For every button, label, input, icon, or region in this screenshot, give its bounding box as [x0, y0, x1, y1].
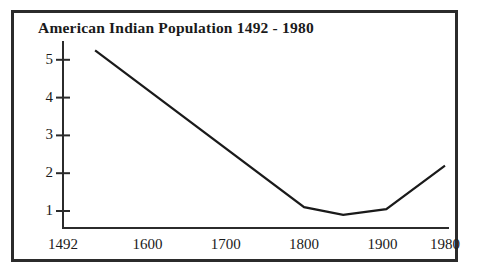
y-axis-tick-label: 3: [31, 126, 53, 143]
figure-frame: American Indian Population 1492 - 1980 1…: [11, 10, 458, 262]
x-axis-tick-label: 1800: [274, 236, 334, 253]
x-axis-tick-label: 1980: [415, 236, 475, 253]
plot-area: [14, 13, 455, 259]
y-axis-tick-label: 4: [31, 89, 53, 106]
y-axis-tick-label: 2: [31, 164, 53, 181]
chart-figure: American Indian Population 1492 - 1980 1…: [0, 0, 482, 277]
x-axis-tick-label: 1492: [33, 236, 93, 253]
x-axis-tick-label: 1700: [196, 236, 256, 253]
y-axis-tick-label: 1: [31, 202, 53, 219]
x-axis-tick-label: 1600: [118, 236, 178, 253]
y-axis-tick-label: 5: [31, 51, 53, 68]
data-series-line: [95, 50, 445, 214]
x-axis-tick-label: 1900: [352, 236, 412, 253]
